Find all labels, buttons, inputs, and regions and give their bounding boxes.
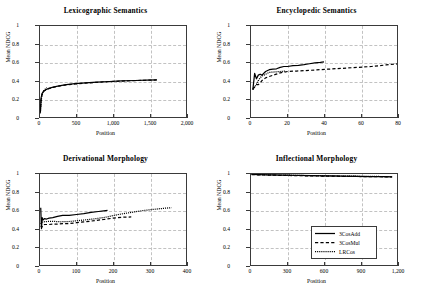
x-axis-label: Position xyxy=(211,130,422,136)
x-tick-label: 80 xyxy=(383,120,413,126)
x-tick-mark xyxy=(113,262,114,266)
x-tick-label: 100 xyxy=(61,268,91,274)
x-tick-mark xyxy=(150,262,151,266)
x-tick-mark xyxy=(287,114,288,118)
y-tick-mark xyxy=(246,210,250,211)
x-tick-mark xyxy=(39,262,40,266)
x-tick-label: 200 xyxy=(98,268,128,274)
series-canvas xyxy=(40,174,186,265)
y-tick-mark xyxy=(35,81,39,82)
plot-area xyxy=(250,25,398,118)
y-tick-label: 0.6 xyxy=(0,207,19,213)
y-tick-mark xyxy=(35,192,39,193)
x-axis-label: Position xyxy=(0,130,211,136)
chart-panel-3: Derivational MorphologyMean NDCGPosition… xyxy=(0,148,211,296)
y-tick-label: 0.6 xyxy=(206,59,230,65)
x-tick-label: 0 xyxy=(24,120,54,126)
figure-grid: Lexicographic SemanticsMean NDCGPosition… xyxy=(0,0,422,297)
series-line-3cosadd xyxy=(253,62,324,90)
plot-area xyxy=(39,173,187,266)
legend-item: LRCos xyxy=(314,247,374,256)
x-tick-mark xyxy=(76,262,77,266)
x-tick-mark xyxy=(361,262,362,266)
series-line-lrcos xyxy=(253,71,286,90)
y-tick-mark xyxy=(246,247,250,248)
x-tick-mark xyxy=(187,114,188,118)
x-tick-mark xyxy=(287,262,288,266)
x-tick-label: 60 xyxy=(346,120,376,126)
y-tick-mark xyxy=(246,44,250,45)
x-tick-label: 20 xyxy=(272,120,302,126)
panel-title: Derivational Morphology xyxy=(0,154,211,163)
x-tick-label: 600 xyxy=(309,268,339,274)
series-line-3cosmul xyxy=(41,217,132,227)
y-tick-mark xyxy=(35,25,39,26)
y-tick-label: 1 xyxy=(206,170,230,176)
x-tick-label: 400 xyxy=(172,268,202,274)
legend-item: 3CosAdd xyxy=(314,229,374,238)
y-tick-label: 0.6 xyxy=(206,207,230,213)
y-tick-mark xyxy=(35,229,39,230)
x-tick-mark xyxy=(113,114,114,118)
y-tick-label: 1 xyxy=(0,170,19,176)
plot-area xyxy=(39,25,187,118)
y-tick-mark xyxy=(35,210,39,211)
y-tick-label: 1 xyxy=(0,22,19,28)
series-line-3cosmul xyxy=(40,80,156,112)
x-tick-label: 0 xyxy=(235,268,265,274)
x-tick-label: 1,500 xyxy=(135,120,165,126)
y-tick-mark xyxy=(246,25,250,26)
series-canvas xyxy=(40,26,186,117)
y-tick-label: 1 xyxy=(206,22,230,28)
x-tick-label: 40 xyxy=(309,120,339,126)
y-tick-label: 0 xyxy=(0,115,19,121)
y-tick-label: 0.2 xyxy=(0,244,19,250)
y-tick-label: 0 xyxy=(0,263,19,269)
y-tick-mark xyxy=(246,99,250,100)
y-tick-label: 0.2 xyxy=(206,96,230,102)
y-tick-mark xyxy=(35,247,39,248)
y-tick-label: 0.6 xyxy=(0,59,19,65)
y-tick-mark xyxy=(246,173,250,174)
legend-label: 3CosAdd xyxy=(339,231,360,237)
y-tick-label: 0.8 xyxy=(0,41,19,47)
series-canvas xyxy=(251,26,397,117)
legend-label: LRCos xyxy=(339,249,355,255)
y-tick-mark xyxy=(246,266,250,267)
x-tick-mark xyxy=(150,114,151,118)
x-tick-mark xyxy=(324,262,325,266)
series-line-3cosadd xyxy=(40,80,156,112)
y-tick-mark xyxy=(246,81,250,82)
y-tick-mark xyxy=(35,118,39,119)
y-tick-mark xyxy=(35,44,39,45)
y-tick-label: 0.4 xyxy=(206,78,230,84)
y-tick-mark xyxy=(35,99,39,100)
x-tick-label: 300 xyxy=(135,268,165,274)
x-tick-label: 1,200 xyxy=(383,268,413,274)
x-axis-label: Position xyxy=(0,278,211,284)
y-tick-label: 0.4 xyxy=(0,78,19,84)
x-tick-label: 1,000 xyxy=(98,120,128,126)
x-tick-label: 2,000 xyxy=(172,120,202,126)
y-tick-mark xyxy=(35,266,39,267)
legend-line-sample-solid xyxy=(314,230,336,237)
legend-label: 3CosMul xyxy=(339,240,360,246)
y-tick-label: 0.4 xyxy=(0,226,19,232)
y-tick-label: 0 xyxy=(206,263,230,269)
x-tick-mark xyxy=(76,114,77,118)
x-tick-mark xyxy=(187,262,188,266)
x-tick-mark xyxy=(250,114,251,118)
x-tick-label: 0 xyxy=(235,120,265,126)
x-tick-mark xyxy=(361,114,362,118)
panel-title: Inflectional Morphology xyxy=(211,154,422,163)
x-axis-label: Position xyxy=(211,278,422,284)
x-tick-label: 0 xyxy=(24,268,54,274)
y-tick-label: 0.2 xyxy=(206,244,230,250)
x-tick-mark xyxy=(250,262,251,266)
x-tick-label: 300 xyxy=(272,268,302,274)
legend-line-sample-dashed xyxy=(314,239,336,246)
y-tick-label: 0.8 xyxy=(206,189,230,195)
y-tick-label: 0.4 xyxy=(206,226,230,232)
y-tick-mark xyxy=(246,229,250,230)
x-tick-mark xyxy=(39,114,40,118)
